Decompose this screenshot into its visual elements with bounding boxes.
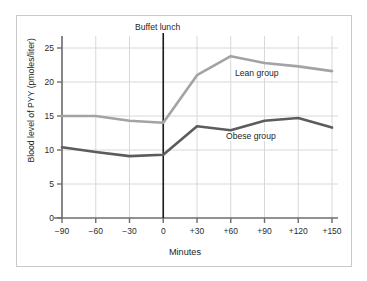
chart-plot-area <box>0 0 367 281</box>
x-tick-label: +150 <box>312 227 352 236</box>
y-tick-label: 5 <box>26 180 54 189</box>
y-axis-title: Blood level of PYY (pmoles/liter) <box>27 25 36 175</box>
axis-lines <box>54 36 338 223</box>
chart-figure: 0510152025 −90−60−300+30+60+90+120+150 B… <box>0 0 367 281</box>
series-label-lean-group: Lean group <box>233 69 281 78</box>
series-label-obese-group: Obese group <box>224 132 278 141</box>
y-tick-label: 0 <box>26 214 54 223</box>
annotation-buffet-lunch: Buffet lunch <box>133 23 182 32</box>
x-axis-title: Minutes <box>40 248 330 257</box>
